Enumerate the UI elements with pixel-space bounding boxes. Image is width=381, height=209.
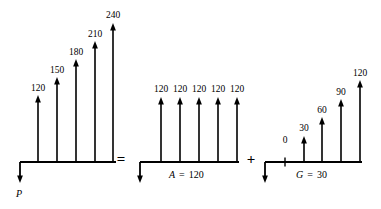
gradient-series-value: 30 [317,169,327,180]
cashflow-value-label: 120 [346,69,374,79]
cashflow-value-label: 30 [294,124,314,134]
present-worth-label: P [16,189,22,199]
cashflow-value-label: 210 [81,30,109,40]
cashflow-value-label: 150 [43,66,71,76]
cashflow-value-label: 240 [99,11,127,21]
cashflow-value-label: 120 [24,84,52,94]
cashflow-value-label: 120 [223,85,251,95]
diagram-gradient-total-group [17,23,116,183]
gradient-series-label: G=30 [296,170,327,180]
cashflow-value-label: 90 [331,88,351,98]
gradient-total-down-arrow-head [17,176,23,184]
uniform-series-value: 120 [189,169,204,180]
operator-plus: + [243,152,259,167]
cashflow-zero-label: 0 [277,136,293,146]
uniform-series-arrow-3-head [215,97,221,105]
gradient-series-down-arrow-head [262,176,268,184]
gradient-series-equals: = [303,169,317,180]
uniform-series-label: A=120 [169,170,204,180]
uniform-series-arrow-1-head [177,97,183,105]
gradient-total-arrow-4-head [110,23,116,31]
gradient-series-arrow-2-head [338,99,344,107]
uniform-series-arrow-0-head [158,97,164,105]
operator-equals: = [113,152,129,167]
cash-flow-figure: = + 120 150 180 210 240 P 120 120 120 12… [0,0,381,209]
uniform-series-arrow-4-head [234,97,240,105]
gradient-series-arrow-3-head [357,80,363,88]
gradient-series-arrow-1-head [319,117,325,125]
gradient-total-arrow-3-head [92,41,98,49]
gradient-series-arrow-0-head [301,136,307,144]
gradient-total-arrow-0-head [35,95,41,103]
uniform-series-down-arrow-head [137,176,143,184]
gradient-total-arrow-2-head [73,59,79,67]
cashflow-value-label: 180 [62,48,90,58]
cashflow-value-label: 60 [312,106,332,116]
uniform-series-arrow-2-head [196,97,202,105]
gradient-total-arrow-1-head [54,77,60,85]
uniform-series-equals: = [175,169,189,180]
